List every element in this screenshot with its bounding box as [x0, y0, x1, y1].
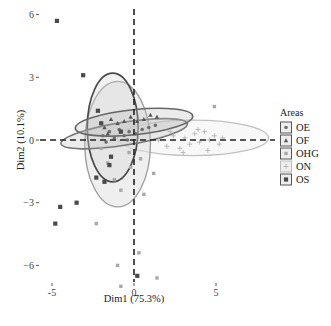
- data-point: [129, 165, 132, 168]
- data-point: [94, 176, 98, 180]
- legend-item-os: OS: [281, 174, 310, 185]
- legend-item-on: ON: [281, 161, 312, 172]
- data-point: [81, 73, 85, 77]
- data-point: [147, 126, 151, 130]
- data-point: [119, 285, 122, 288]
- data-point: [109, 155, 113, 159]
- data-point: [102, 180, 106, 184]
- legend-item-ohg: OHG: [281, 148, 320, 159]
- x-tick-label: 5: [214, 287, 219, 298]
- data-point: [116, 264, 119, 267]
- data-point: [53, 222, 57, 226]
- data-point: [213, 105, 216, 108]
- legend-item-oe: OE: [281, 122, 311, 133]
- y-tick-label: −3: [23, 197, 34, 208]
- pca-biplot: −6−3036 -505 Dim1 (75.3%) Dim2 (10.1%) A…: [0, 0, 331, 326]
- legend: Areas OEOFOHGONOS: [280, 107, 319, 185]
- legend-label: OE: [296, 122, 310, 133]
- data-point: [100, 147, 103, 150]
- legend-title: Areas: [280, 107, 303, 118]
- legend-label: OF: [296, 135, 310, 146]
- legend-label: ON: [296, 161, 312, 172]
- data-point: [154, 124, 158, 128]
- data-point: [284, 126, 288, 130]
- y-axis-title: Dim2 (10.1%): [15, 109, 27, 170]
- data-point: [99, 121, 103, 125]
- data-point: [104, 140, 108, 144]
- data-point: [155, 276, 158, 279]
- legend-label: OHG: [296, 148, 319, 159]
- x-axis-title: Dim1 (75.3%): [104, 293, 165, 305]
- data-point: [152, 172, 155, 175]
- data-point: [140, 128, 144, 132]
- data-point: [101, 134, 105, 138]
- data-point: [139, 157, 142, 160]
- data-point: [95, 222, 98, 225]
- data-point: [126, 138, 130, 142]
- y-tick-label: 0: [29, 135, 34, 146]
- y-tick-label: 3: [29, 72, 34, 83]
- data-point: [119, 130, 123, 134]
- data-point: [122, 134, 126, 138]
- data-point: [58, 205, 62, 209]
- data-point: [137, 251, 140, 254]
- data-point: [107, 163, 111, 167]
- data-point: [55, 19, 59, 23]
- y-tick-label: 6: [29, 9, 34, 20]
- data-point: [284, 177, 288, 181]
- legend-label: OS: [296, 174, 310, 185]
- data-point: [142, 193, 145, 196]
- data-point: [127, 130, 131, 134]
- data-point: [284, 152, 287, 155]
- plot-area: [40, 9, 275, 288]
- data-point: [119, 188, 122, 191]
- data-point: [135, 274, 139, 278]
- data-point: [96, 109, 100, 113]
- data-point: [113, 136, 117, 140]
- data-point: [113, 178, 116, 181]
- legend-item-of: OF: [281, 135, 310, 146]
- data-point: [127, 151, 130, 154]
- y-tick-label: −6: [23, 260, 34, 271]
- data-point: [75, 201, 79, 205]
- x-tick-label: -5: [48, 287, 56, 298]
